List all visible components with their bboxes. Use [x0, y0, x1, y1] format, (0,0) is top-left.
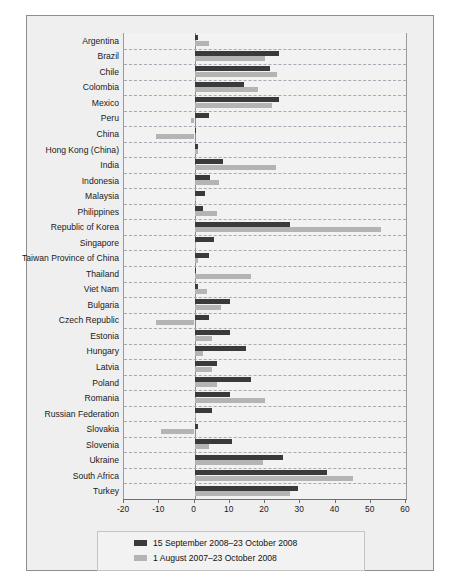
gridline: [124, 80, 406, 81]
bar-series-2: [191, 118, 195, 123]
gridline: [124, 188, 406, 189]
bar-series-1: [195, 144, 199, 149]
bar-series-2: [161, 429, 194, 434]
bar-series-1: [195, 237, 214, 242]
bar-series-1: [195, 424, 199, 429]
x-tick: [158, 499, 159, 503]
category-label: China: [97, 130, 119, 139]
x-tick: [229, 499, 230, 503]
legend-swatch-icon: [134, 540, 147, 546]
x-tick-label: 50: [365, 504, 374, 514]
bar-series-2: [195, 227, 382, 232]
x-axis-line: [123, 499, 407, 500]
x-tick-label: 20: [259, 504, 268, 514]
x-tick: [123, 499, 124, 503]
x-tick: [264, 499, 265, 503]
bar-series-2: [195, 258, 199, 263]
bar-series-1: [195, 439, 232, 444]
gridline: [124, 235, 406, 236]
category-label: Estonia: [90, 332, 119, 341]
category-label: Turkey: [93, 487, 119, 496]
chart-figure: ArgentinaBrazilChileColombiaMexicoPeruCh…: [26, 15, 434, 571]
category-label: Hong Kong (China): [45, 145, 119, 154]
bar-series-1: [195, 361, 218, 366]
bar-series-2: [195, 41, 209, 46]
bar-series-2: [195, 103, 273, 108]
bar-series-1: [195, 268, 197, 273]
bar-series-2: [195, 165, 276, 170]
bar-series-1: [195, 51, 280, 56]
legend-item-series-1: 15 September 2008–23 October 2008: [134, 538, 364, 548]
gridline: [124, 313, 406, 314]
bar-series-2: [195, 460, 264, 465]
x-tick-label: -10: [152, 504, 164, 514]
category-label: Bulgaria: [87, 301, 119, 310]
gridline: [124, 421, 406, 422]
bar-series-1: [195, 299, 230, 304]
gridline: [124, 282, 406, 283]
bar-series-1: [195, 377, 251, 382]
bar-series-2: [195, 351, 204, 356]
bar-series-1: [195, 97, 280, 102]
bar-series-2: [195, 367, 213, 372]
category-label: Hungary: [87, 347, 119, 356]
gridline: [124, 390, 406, 391]
legend-label: 1 August 2007–23 October 2008: [153, 553, 277, 563]
bar-series-2: [195, 336, 213, 341]
category-label: Republic of Korea: [51, 223, 119, 232]
gridline: [124, 111, 406, 112]
bar-series-1: [195, 330, 230, 335]
category-label: Ukraine: [89, 456, 119, 465]
gridline: [124, 250, 406, 251]
gridline: [124, 126, 406, 127]
bar-series-2: [195, 243, 196, 248]
category-label: India: [100, 161, 119, 170]
bar-series-2: [195, 211, 218, 216]
gridline: [124, 157, 406, 158]
gridline: [124, 344, 406, 345]
gridline: [124, 468, 406, 469]
bar-series-2: [195, 180, 220, 185]
bar-series-2: [195, 72, 278, 77]
bar-series-2: [195, 149, 199, 154]
category-label: South Africa: [73, 471, 119, 480]
x-tick-label: 30: [295, 504, 304, 514]
gridline: [124, 64, 406, 65]
gridline: [124, 359, 406, 360]
category-label: Mexico: [92, 99, 119, 108]
bar-series-2: [195, 491, 290, 496]
category-label: Argentina: [82, 36, 119, 45]
category-label: Romania: [85, 394, 119, 403]
bar-series-1: [195, 66, 271, 71]
category-label: Slovenia: [86, 440, 119, 449]
bar-series-2: [195, 56, 266, 61]
category-label: Slovakia: [87, 425, 119, 434]
bar-series-1: [195, 206, 204, 211]
x-axis: -20-100102030405060: [123, 499, 407, 519]
bar-series-2: [195, 289, 207, 294]
bar-series-1: [195, 128, 196, 133]
bar-series-1: [195, 253, 209, 258]
gridline: [124, 173, 406, 174]
x-tick-label: 0: [191, 504, 196, 514]
bar-series-2: [195, 398, 266, 403]
legend-swatch-icon: [134, 555, 147, 561]
gridline: [124, 328, 406, 329]
bar-series-1: [195, 191, 206, 196]
bar-series-1: [195, 35, 199, 40]
bar-series-1: [195, 82, 244, 87]
x-tick: [370, 499, 371, 503]
bar-series-1: [195, 392, 230, 397]
gridline: [124, 452, 406, 453]
bar-series-1: [195, 455, 283, 460]
category-label: Indonesia: [82, 176, 119, 185]
bar-series-2: [195, 305, 221, 310]
category-label: Malaysia: [85, 192, 119, 201]
category-label: Czech Republic: [59, 316, 119, 325]
chart-legend: 15 September 2008–23 October 2008 1 Augu…: [97, 531, 365, 571]
gridline: [124, 95, 406, 96]
gridline: [124, 437, 406, 438]
bar-series-2: [195, 87, 258, 92]
bar-series-1: [195, 486, 299, 491]
gridline: [124, 297, 406, 298]
